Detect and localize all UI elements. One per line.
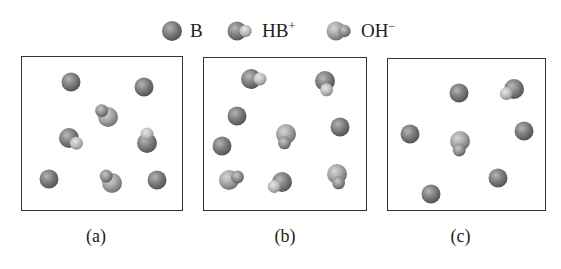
base-particle	[148, 171, 167, 190]
conjugate-acid-particle	[137, 128, 157, 154]
base-particle	[40, 170, 59, 189]
caption-c: (c)	[431, 226, 491, 247]
hydroxide-particle	[100, 170, 122, 193]
hydroxide-particle	[95, 104, 118, 127]
base-particle	[213, 137, 232, 156]
base-particle	[331, 118, 350, 137]
conjugate-acid-particle	[268, 172, 292, 193]
conjugate-acid-particle	[315, 71, 335, 96]
hydroxide-particle	[219, 170, 244, 190]
base-particle	[62, 73, 81, 92]
caption-a: (a)	[66, 226, 126, 247]
hydroxide-particle	[327, 164, 347, 189]
base-particle	[135, 78, 154, 97]
base-particle	[401, 125, 420, 144]
conjugate-acid-particle	[59, 128, 83, 150]
hydroxide-particle	[276, 124, 296, 149]
conjugate-acid-particle	[241, 69, 267, 89]
caption-b: (b)	[255, 226, 315, 247]
base-particle	[489, 169, 508, 188]
base-particle	[450, 84, 469, 103]
base-particle	[515, 122, 534, 141]
base-particle	[422, 185, 441, 204]
conjugate-acid-particle	[500, 79, 524, 100]
hydroxide-particle	[450, 131, 470, 156]
base-particle	[228, 107, 247, 126]
